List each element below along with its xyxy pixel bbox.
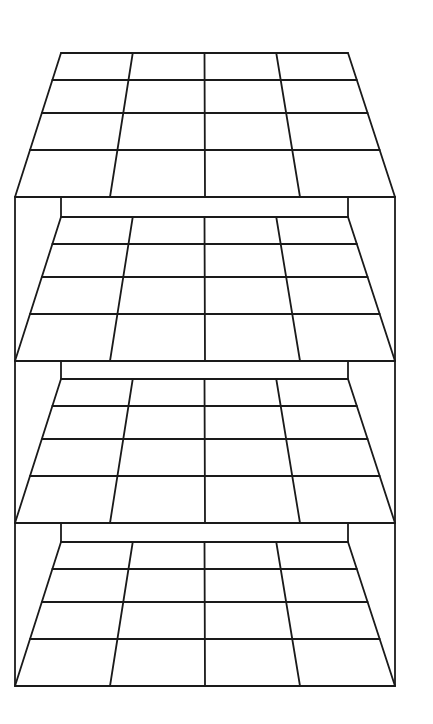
diagram-canvas [0, 0, 433, 724]
grid-column-line [205, 53, 206, 197]
grid-column-line [205, 217, 206, 361]
background [0, 0, 433, 724]
stacked-shelves-diagram [0, 0, 433, 724]
grid-column-line [205, 379, 206, 523]
grid-column-line [205, 542, 206, 686]
